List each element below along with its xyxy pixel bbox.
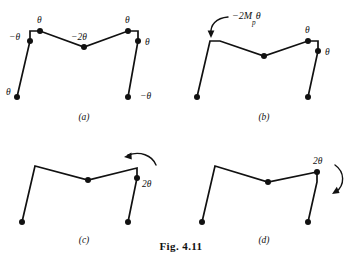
moment-theta: θ bbox=[256, 10, 261, 21]
label-d-right-top: 2θ bbox=[313, 156, 323, 166]
moment-arrow-b-head bbox=[208, 31, 215, 38]
joint-a-right-knee bbox=[135, 38, 141, 44]
label-b-right-knee: θ bbox=[325, 47, 330, 57]
joint-a-right-top bbox=[125, 28, 131, 34]
panel-b: −2Mpθ θ θ (b) bbox=[194, 10, 330, 123]
panel-label-b: (b) bbox=[258, 112, 269, 123]
frame-b-outline bbox=[197, 41, 318, 97]
joint-c-apex bbox=[85, 177, 91, 183]
joint-c-right-knee bbox=[134, 175, 140, 181]
joint-a-left-knee bbox=[27, 38, 33, 44]
joint-d-right-base bbox=[305, 219, 311, 225]
frame-c-outline bbox=[22, 166, 137, 222]
moment-main: −2M bbox=[232, 10, 253, 21]
joint-d-apex bbox=[265, 179, 271, 185]
label-a-left-base: θ bbox=[6, 87, 11, 97]
panel-d: 2θ (d) bbox=[199, 156, 343, 246]
joint-a-right-base bbox=[125, 94, 131, 100]
moment-arrow-c-arc bbox=[128, 153, 156, 165]
joint-a-left-base bbox=[14, 94, 20, 100]
label-a-right-top: θ bbox=[125, 15, 130, 25]
panel-label-a: (a) bbox=[78, 112, 89, 123]
joint-b-right-base bbox=[305, 94, 311, 100]
moment-arrow-c-head bbox=[124, 153, 132, 160]
joint-b-right-top bbox=[305, 38, 311, 44]
label-b-applied-moment: −2Mpθ bbox=[232, 10, 261, 27]
figure-caption: Fig. 4.11 bbox=[0, 240, 362, 252]
label-a-left-knee: −θ bbox=[9, 32, 20, 42]
joint-b-apex bbox=[261, 53, 267, 59]
joint-a-apex bbox=[81, 44, 87, 50]
frame-d-outline bbox=[202, 166, 317, 222]
label-a-left-top: θ bbox=[37, 15, 42, 25]
joint-c-left-base bbox=[19, 219, 25, 225]
label-b-right-top: θ bbox=[305, 25, 310, 35]
figure-svg: θ −θ θ −2θ θ θ −θ (a) −2Mpθ θ θ (b) bbox=[0, 0, 362, 269]
panel-a: θ −θ θ −2θ θ θ −θ (a) bbox=[6, 15, 151, 123]
joint-c-right-base bbox=[125, 219, 131, 225]
label-a-right-knee: θ bbox=[145, 37, 150, 47]
joint-b-left-base bbox=[194, 94, 200, 100]
label-a-right-base: −θ bbox=[140, 91, 151, 101]
joint-b-right-knee bbox=[315, 48, 321, 54]
joint-d-right-top bbox=[314, 169, 320, 175]
figure-container: θ −θ θ −2θ θ θ −θ (a) −2Mpθ θ θ (b) bbox=[0, 0, 362, 269]
joint-a-left-top bbox=[37, 28, 43, 34]
panel-c: 2θ (c) bbox=[19, 153, 156, 246]
joint-d-left-base bbox=[199, 219, 205, 225]
label-a-apex: −2θ bbox=[71, 32, 87, 42]
label-c-right-knee: 2θ bbox=[142, 179, 152, 189]
